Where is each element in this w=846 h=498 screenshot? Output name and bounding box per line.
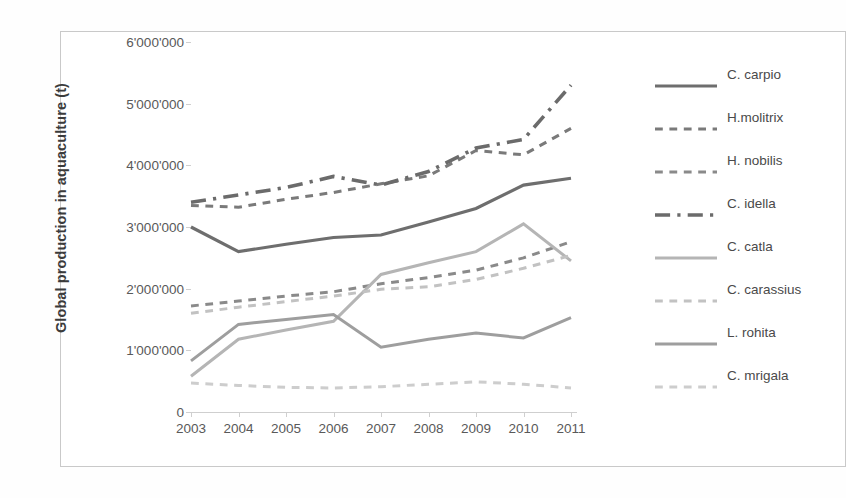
legend-item[interactable]: C. catla [655, 234, 840, 277]
x-axis-tick-label: 2006 [318, 421, 348, 436]
x-axis-tick-mark [571, 412, 572, 417]
legend-swatch [655, 377, 717, 385]
y-axis-tick-label: 1'000'000 [126, 343, 184, 358]
x-axis-tick-label: 2007 [366, 421, 396, 436]
legend-label: C. carassius [727, 282, 801, 297]
x-axis-tick-label: 2010 [508, 421, 538, 436]
chart-legend: C. carpioH.molitrixH. nobilisC. idellaC.… [655, 62, 840, 406]
x-axis-tick-mark [191, 412, 192, 417]
chart-figure: Global production in aquaculture (t) 01'… [0, 0, 846, 498]
x-axis-tick-label: 2009 [461, 421, 491, 436]
x-axis-tick-label: 2008 [413, 421, 443, 436]
y-axis-tick-label: 0 [176, 405, 184, 420]
series-line [191, 178, 571, 251]
legend-swatch [655, 119, 717, 127]
x-axis-tick-label: 2011 [556, 421, 585, 436]
y-axis-tick-label: 5'000'000 [126, 96, 184, 111]
legend-swatch [655, 291, 717, 299]
legend-swatch [655, 248, 717, 256]
y-axis-tick-label: 6'000'000 [126, 35, 184, 50]
legend-label: C. mrigala [727, 368, 789, 383]
legend-item[interactable]: C. idella [655, 191, 840, 234]
series-lines [191, 42, 571, 412]
y-axis-tick-label: 3'000'000 [126, 220, 184, 235]
x-axis-tick-label: 2005 [271, 421, 301, 436]
legend-label: C. idella [727, 196, 776, 211]
legend-item[interactable]: H. nobilis [655, 148, 840, 191]
x-axis-tick-mark [429, 412, 430, 417]
legend-label: H.molitrix [727, 110, 783, 125]
x-axis-tick-mark [334, 412, 335, 417]
y-axis-tick-label: 2'000'000 [126, 281, 184, 296]
plot-area [191, 42, 571, 412]
x-axis-tick-mark [524, 412, 525, 417]
legend-label: L. rohita [727, 325, 776, 340]
legend-label: C. carpio [727, 67, 781, 82]
y-axis-tick-labels: 01'000'0002'000'0003'000'0004'000'0005'0… [88, 42, 184, 413]
x-axis-tick-mark [476, 412, 477, 417]
legend-item[interactable]: C. carpio [655, 62, 840, 105]
y-axis-tick-label: 4'000'000 [126, 158, 184, 173]
x-axis-tick-mark [381, 412, 382, 417]
legend-swatch [655, 162, 717, 170]
legend-item[interactable]: H.molitrix [655, 105, 840, 148]
x-axis-tick-label: 2003 [176, 421, 206, 436]
x-axis-tick-label: 2004 [223, 421, 253, 436]
series-line [191, 224, 571, 376]
legend-swatch [655, 76, 717, 84]
y-axis-title: Global production in aquaculture (t) [53, 43, 69, 373]
x-axis-tick-mark [239, 412, 240, 417]
legend-item[interactable]: C. carassius [655, 277, 840, 320]
legend-swatch [655, 334, 717, 342]
legend-label: C. catla [727, 239, 773, 254]
legend-label: H. nobilis [727, 153, 783, 168]
series-line [191, 382, 571, 388]
legend-item[interactable]: C. mrigala [655, 363, 840, 406]
legend-swatch [655, 205, 717, 213]
legend-item[interactable]: L. rohita [655, 320, 840, 363]
x-axis-line [191, 412, 577, 413]
x-axis-tick-mark [286, 412, 287, 417]
